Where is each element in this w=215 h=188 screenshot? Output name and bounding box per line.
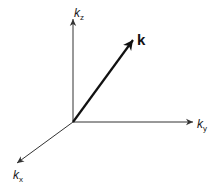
- k-vector-arrow: [73, 40, 133, 122]
- wavevector-diagram: [0, 0, 215, 188]
- k-vector-label: k: [137, 32, 145, 47]
- kx-axis: [17, 122, 73, 163]
- ky-label: ky: [197, 118, 207, 133]
- kz-label: kz: [74, 7, 84, 22]
- kx-label: kx: [13, 169, 23, 184]
